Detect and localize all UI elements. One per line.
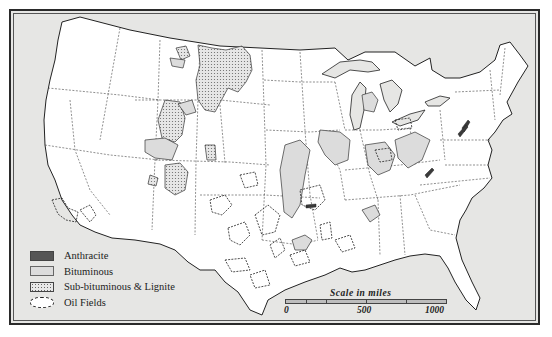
scale-tick	[366, 299, 367, 304]
bituminous-swatch-icon	[30, 266, 54, 276]
legend-label: Bituminous	[64, 266, 113, 277]
legend-label: Sub-bituminous & Lignite	[64, 281, 175, 292]
legend-label: Oil Fields	[64, 297, 106, 308]
scale-tick	[406, 299, 407, 304]
legend-label: Anthracite	[64, 250, 108, 261]
scale-label-500: 500	[357, 305, 371, 315]
legend-item-anthracite: Anthracite	[30, 248, 175, 264]
sub-bituminous-swatch-icon	[30, 282, 54, 292]
scale-tick	[306, 299, 307, 304]
scale-title: Scale in miles	[330, 288, 391, 298]
scale-line	[285, 299, 447, 304]
legend: Anthracite Bituminous Sub-bituminous & L…	[30, 248, 175, 310]
scale-tick	[326, 299, 327, 304]
legend-item-oil-fields: Oil Fields	[30, 295, 175, 311]
scale-label-1000: 1000	[425, 305, 444, 315]
anthracite-swatch-icon	[30, 251, 54, 261]
legend-item-sub-bituminous-lignite: Sub-bituminous & Lignite	[30, 279, 175, 295]
legend-item-bituminous: Bituminous	[30, 264, 175, 280]
oil-field-swatch-icon	[30, 297, 54, 308]
scale-label-0: 0	[284, 305, 289, 315]
